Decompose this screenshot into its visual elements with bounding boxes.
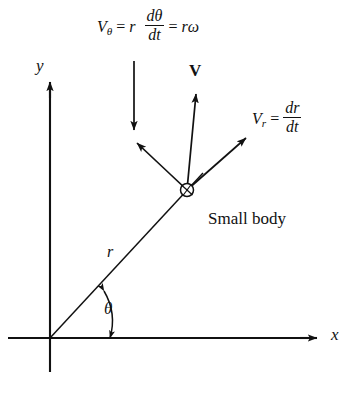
theta-label: θ [104, 300, 112, 317]
radius-line [50, 173, 203, 338]
v-theta-vector [137, 143, 187, 190]
dr-numerator: dr [283, 100, 301, 118]
v-theta-equation-label: Vθ = r dθ dt = rω [97, 8, 199, 43]
v-r-symbol: V [252, 110, 262, 127]
dtheta-numerator: dθ [145, 8, 165, 26]
v-theta-subscript: θ [107, 25, 113, 37]
v-total-vector [187, 94, 196, 190]
dt-denominator: dt [145, 26, 165, 43]
radius-label: r [107, 244, 113, 260]
dtheta-dt-fraction: dθ dt [145, 8, 165, 43]
small-body-label: Small body [208, 210, 286, 227]
v-theta-equals-sign: = [116, 18, 125, 35]
v-r-equals-sign: = [270, 110, 279, 127]
dr-dt-fraction: dr dt [283, 100, 301, 135]
x-axis-label: x [331, 326, 339, 343]
v-r-equation-label: Vr = dr dt [252, 100, 301, 135]
v-r-subscript: r [262, 117, 266, 129]
diagram-canvas [0, 0, 357, 393]
v-vector-label: V [189, 62, 201, 79]
v-theta-result: rω [181, 18, 199, 35]
v-theta-radius-symbol: r [129, 18, 135, 35]
polar-velocity-diagram: Vθ = r dθ dt = rω Vr = dr dt V Small bod… [0, 0, 357, 393]
small-body-marker [181, 184, 194, 197]
v-theta-symbol: V [97, 18, 107, 35]
v-theta-equals-sign-2: = [168, 18, 177, 35]
y-axis-label: y [36, 57, 44, 74]
dt-denominator-2: dt [283, 118, 301, 135]
v-r-vector [187, 138, 246, 190]
